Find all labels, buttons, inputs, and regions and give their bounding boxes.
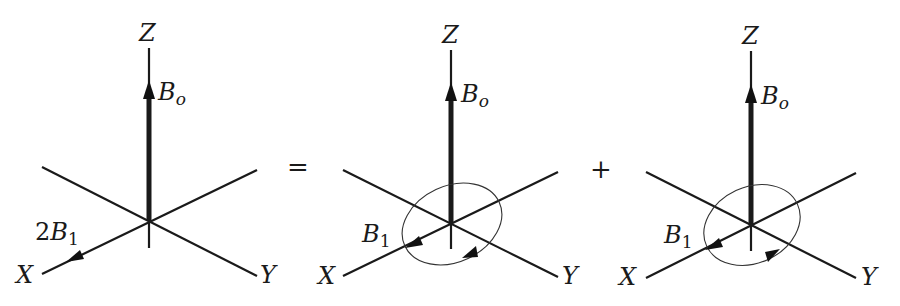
2b1-label: 2B1 bbox=[35, 218, 79, 249]
x-arrowhead-icon bbox=[66, 250, 84, 262]
bo-arrowhead-icon bbox=[143, 80, 155, 99]
plus-sign: + bbox=[590, 154, 612, 184]
x-label: X bbox=[14, 261, 34, 289]
b1-label: B1 bbox=[663, 221, 692, 252]
rotation-arrowhead-icon bbox=[462, 246, 478, 258]
x-label: X bbox=[316, 262, 336, 290]
y-label: Y bbox=[260, 261, 278, 289]
z-label: Z bbox=[741, 22, 760, 50]
bo-label: Bo bbox=[157, 78, 186, 109]
bo-arrowhead-icon bbox=[745, 84, 757, 103]
panel-rotating-1: Z X Y Bo B1 bbox=[316, 21, 580, 290]
panel-linear: Z X Y Bo 2B1 bbox=[14, 19, 278, 289]
z-label: Z bbox=[441, 21, 460, 49]
equals-sign: = bbox=[287, 152, 309, 182]
field-decomposition-diagram: Z X Y Bo 2B1 = Z X Y Bo B1 + Z X Y bbox=[0, 0, 900, 306]
y-label: Y bbox=[861, 263, 879, 291]
z-label: Z bbox=[138, 19, 157, 47]
b1-label: B1 bbox=[361, 220, 390, 251]
y-label: Y bbox=[562, 262, 580, 290]
bo-label: Bo bbox=[460, 80, 489, 111]
x-label: X bbox=[617, 263, 637, 291]
bo-label: Bo bbox=[760, 82, 789, 113]
panel-rotating-2: Z X Y Bo B1 bbox=[617, 22, 879, 291]
bo-arrowhead-icon bbox=[445, 82, 457, 101]
